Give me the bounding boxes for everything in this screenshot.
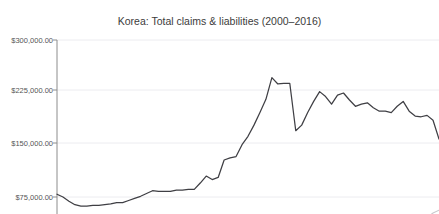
y-axis <box>53 40 57 214</box>
chart-container: ···································· Kor… <box>0 0 439 214</box>
chart-svg <box>0 0 439 214</box>
plot-area: $300,000.00 $225,000.00 $150,000.00 $75,… <box>0 0 439 214</box>
series-line-total-liabilities <box>403 210 439 214</box>
y-axis-label-group: $300,000.00 $225,000.00 $150,000.00 $75,… <box>0 0 53 214</box>
y-axis-label-225000: $225,000.00 <box>1 86 53 95</box>
gridlines <box>57 40 439 197</box>
y-axis-label-150000: $150,000.00 <box>1 139 53 148</box>
y-axis-label-300000: $300,000.00 <box>1 36 53 45</box>
series-line-total-claims <box>57 78 439 206</box>
y-axis-label-75000: $75,000.00 <box>1 193 53 202</box>
